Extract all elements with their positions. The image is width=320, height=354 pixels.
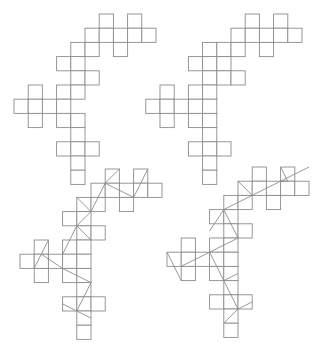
grid-cell: [259, 28, 273, 42]
grid-cell: [48, 254, 62, 268]
grid-cell: [71, 57, 85, 71]
grid-cell: [91, 197, 105, 211]
grid-cell: [28, 85, 42, 99]
grid-cell: [295, 181, 309, 195]
grid-cell: [134, 183, 148, 197]
grid-cell: [210, 252, 224, 266]
grid-cell: [85, 71, 99, 85]
grid-cell: [174, 99, 188, 113]
grid-cell: [128, 28, 142, 42]
grid-cell: [281, 167, 295, 181]
grid-cell: [210, 295, 224, 309]
grid-cell: [71, 113, 85, 127]
grid-cell: [281, 181, 295, 195]
grid-cell: [203, 113, 217, 127]
grid-cell: [274, 14, 288, 28]
grid-cell: [85, 28, 99, 42]
grid-cell: [113, 42, 127, 56]
grid-cell: [77, 240, 91, 254]
grid-cell: [71, 170, 85, 184]
grid-cell: [146, 99, 160, 113]
grid-cell: [217, 71, 231, 85]
grid-cell: [252, 181, 266, 195]
grid-cell: [231, 71, 245, 85]
grid-cell: [91, 297, 105, 311]
grid-cell: [217, 42, 231, 56]
grid-cell: [224, 323, 238, 337]
grid-cell: [42, 99, 56, 113]
grid-cell: [119, 183, 133, 197]
grid-cell: [28, 113, 42, 127]
grid-cell: [91, 183, 105, 197]
net-bottom-left: [20, 169, 162, 339]
grid-cell: [71, 156, 85, 170]
grid-cell: [203, 85, 217, 99]
grid-cell: [148, 183, 162, 197]
grid-cell: [188, 142, 202, 156]
grid-cell: [210, 210, 224, 224]
grid-cell: [188, 85, 202, 99]
grid-cell: [77, 297, 91, 311]
grid-cell: [99, 28, 113, 42]
grid-cell: [181, 238, 195, 252]
grid-cell: [160, 85, 174, 99]
grid-cell: [105, 183, 119, 197]
diagram-canvas: [0, 0, 320, 354]
grid-cell: [210, 266, 224, 280]
grid-cell: [63, 212, 77, 226]
grid-cell: [57, 85, 71, 99]
grid-cell: [288, 28, 302, 42]
grid-cell: [20, 254, 34, 268]
grid-cell: [231, 28, 245, 42]
grid-cell: [77, 325, 91, 339]
grid-cell: [238, 224, 252, 238]
grid-cell: [203, 99, 217, 113]
grid-cell: [224, 195, 238, 209]
grid-cell: [91, 226, 105, 240]
grid-cell: [134, 169, 148, 183]
grid-cell: [34, 254, 48, 268]
grid-cell: [160, 113, 174, 127]
grid-cell: [57, 142, 71, 156]
grid-cell: [203, 156, 217, 170]
grid-cell: [71, 128, 85, 142]
grid-cell: [71, 71, 85, 85]
grid-cell: [266, 181, 280, 195]
grid-cell: [181, 252, 195, 266]
grid-cell: [195, 252, 209, 266]
grid-cell: [71, 85, 85, 99]
grid-cell: [245, 28, 259, 42]
grid-cell: [238, 195, 252, 209]
grid-cell: [119, 197, 133, 211]
grid-cell: [274, 28, 288, 42]
grid-cell: [238, 295, 252, 309]
grid-cell: [71, 142, 85, 156]
grid-cell: [210, 238, 224, 252]
grid-cell: [63, 254, 77, 268]
grid-cell: [160, 99, 174, 113]
grid-cell: [77, 254, 91, 268]
grid-cell: [203, 128, 217, 142]
grid-cell: [167, 252, 181, 266]
grid-cell: [34, 268, 48, 282]
grid-cell: [245, 14, 259, 28]
grid-cell: [57, 99, 71, 113]
grid-cell: [188, 113, 202, 127]
grid-cell: [252, 167, 266, 181]
grid-cell: [217, 142, 231, 156]
grid-cell: [188, 57, 202, 71]
grid-cell: [224, 295, 238, 309]
grid-cell: [203, 71, 217, 85]
grid-cell: [224, 210, 238, 224]
grid-cell: [203, 142, 217, 156]
grid-cell: [113, 28, 127, 42]
grid-cell: [99, 14, 113, 28]
grid-cell: [224, 252, 238, 266]
grid-cell: [224, 224, 238, 238]
grid-cell: [224, 266, 238, 280]
grid-cell: [224, 238, 238, 252]
grid-cell: [28, 99, 42, 113]
grid-cell: [203, 170, 217, 184]
grid-cell: [203, 42, 217, 56]
net-top-right: [146, 14, 302, 184]
